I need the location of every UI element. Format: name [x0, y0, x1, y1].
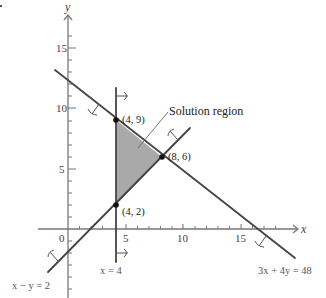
- vertex-label-8-6: (8, 6): [168, 151, 191, 163]
- vertex-label-4-2: (4, 2): [122, 206, 145, 218]
- vertex-4-9: [113, 117, 119, 123]
- line-3x-plus-4y-eq-48: [55, 70, 295, 258]
- x-tick-label-15: 15: [235, 232, 247, 244]
- x-eq-4-direction-arrow-icon: [116, 92, 128, 100]
- y-tick-label-15: 15: [56, 42, 68, 54]
- vertex-8-6: [159, 154, 165, 160]
- vertex-4-2: [113, 202, 119, 208]
- x-tick-label-5: 5: [123, 232, 129, 244]
- 3x-4y-direction-arrow-icon: [88, 104, 99, 115]
- equation-label-x-minus-y: x − y = 2: [12, 280, 50, 291]
- vertex-label-4-9: (4, 9): [122, 114, 145, 126]
- origin-label: 0: [59, 232, 65, 244]
- 3x-4y-direction-arrow-icon-bottom: [255, 236, 266, 247]
- linear-inequality-graph: y x 15 10 5 0 5 10 15 (4, 9) (8, 6) (4, …: [0, 0, 326, 298]
- equation-label-x-eq-4: x = 4: [100, 265, 122, 276]
- y-axis-label: y: [64, 0, 71, 14]
- y-tick-label-10: 10: [56, 102, 68, 114]
- stray-mark: [0, 5, 2, 7]
- x-minus-y-direction-arrow-icon-bottom: [48, 250, 58, 261]
- x-minus-y-direction-arrow-icon: [168, 129, 178, 140]
- x-eq-4-direction-arrow-icon-bottom: [116, 249, 128, 257]
- x-ticks: [80, 224, 276, 229]
- y-tick-label-5: 5: [59, 163, 65, 175]
- equation-label-3x-4y: 3x + 4y = 48: [258, 265, 312, 276]
- x-tick-label-10: 10: [177, 232, 189, 244]
- solution-region-label: Solution region: [169, 104, 243, 118]
- x-axis-label: x: [300, 222, 307, 236]
